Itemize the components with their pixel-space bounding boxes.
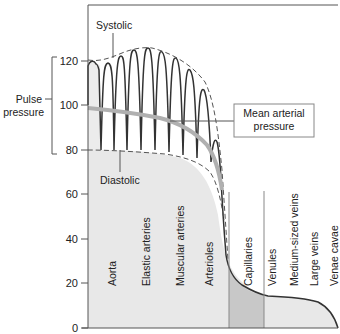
diastolic-label: Diastolic	[100, 174, 140, 186]
map-label-1: Mean arterial	[243, 107, 304, 119]
region-large-veins: Large veins	[308, 232, 320, 286]
y-tick-120: 120	[60, 55, 78, 67]
y-ticks	[81, 61, 88, 328]
region-aorta: Aorta	[106, 261, 118, 286]
region-arterioles: Arterioles	[203, 242, 215, 286]
y-tick-0: 0	[72, 322, 78, 334]
pulse-zone-fill	[88, 62, 100, 150]
y-tick-60: 60	[66, 188, 78, 200]
region-capillaries: Capillaries	[242, 237, 254, 286]
pulse-pressure-label-1: Pulse	[16, 93, 42, 105]
systolic-label: Systolic	[96, 19, 132, 31]
region-venae-cavae: Venae cavae	[328, 225, 340, 286]
y-tick-40: 40	[66, 233, 78, 245]
blood-pressure-chart: 0 20 40 60 80 100 120 Pulse pressure Sys…	[0, 0, 340, 334]
region-venules: Venules	[266, 249, 278, 286]
y-tick-100: 100	[60, 99, 78, 111]
pulse-pressure-bracket	[52, 57, 57, 154]
map-label-2: pressure	[254, 120, 295, 132]
region-elastic-arteries: Elastic arteries	[140, 217, 152, 286]
pulse-pressure-label-2: pressure	[3, 106, 44, 118]
y-tick-80: 80	[66, 144, 78, 156]
region-muscular-arteries: Muscular arteries	[174, 205, 186, 286]
y-tick-20: 20	[66, 277, 78, 289]
region-medium-sized-veins: Medium-sized veins	[288, 193, 300, 286]
